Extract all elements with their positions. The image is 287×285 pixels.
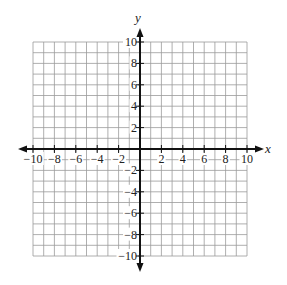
x-tick-label: 8 xyxy=(223,152,229,166)
y-tick-label: 8 xyxy=(131,56,137,70)
y-tick-label: −4 xyxy=(124,185,137,199)
y-tick-label: 4 xyxy=(131,99,137,113)
x-tick-label: −6 xyxy=(69,152,82,166)
x-axis-right-arrow-icon xyxy=(255,146,264,153)
y-axis-down-arrow-icon xyxy=(137,263,144,272)
coordinate-plane: −10−8−6−4−2246810 108642−2−4−6−8−10 x y xyxy=(0,0,287,285)
x-tick-label: 4 xyxy=(180,152,186,166)
y-tick-label: −8 xyxy=(124,228,137,242)
y-tick-label: −10 xyxy=(118,249,137,263)
y-tick-label: −6 xyxy=(124,206,137,220)
x-tick-label: 10 xyxy=(241,152,253,166)
y-axis-up-arrow-icon xyxy=(137,28,144,37)
x-axis-label: x xyxy=(264,141,271,156)
y-tick-label: −2 xyxy=(124,163,137,177)
x-tick-labels: −10−8−6−4−2246810 xyxy=(24,152,253,166)
y-tick-label: 10 xyxy=(125,35,137,49)
x-tick-label: 6 xyxy=(201,152,207,166)
y-tick-label: 6 xyxy=(131,78,137,92)
x-tick-label: −8 xyxy=(48,152,61,166)
x-tick-label: −4 xyxy=(91,152,104,166)
y-tick-label: 2 xyxy=(131,121,137,135)
x-tick-label: −2 xyxy=(112,152,125,166)
x-tick-label: 2 xyxy=(158,152,164,166)
x-tick-label: −10 xyxy=(24,152,43,166)
y-axis-label: y xyxy=(133,10,141,25)
